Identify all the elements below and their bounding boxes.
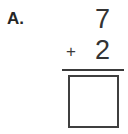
addend-row-bottom: + 2	[62, 35, 124, 66]
sum-rule	[62, 69, 124, 71]
addend-top: 7	[95, 6, 124, 33]
problem-label: A.	[7, 9, 24, 28]
worksheet-problem: A. 7 + 2	[0, 0, 128, 134]
answer-box[interactable]	[68, 75, 119, 128]
addend-row-top: 7	[62, 4, 124, 35]
addend-bottom: 2	[95, 37, 124, 64]
plus-icon: +	[66, 42, 76, 59]
addition-stack: 7 + 2	[62, 4, 124, 66]
